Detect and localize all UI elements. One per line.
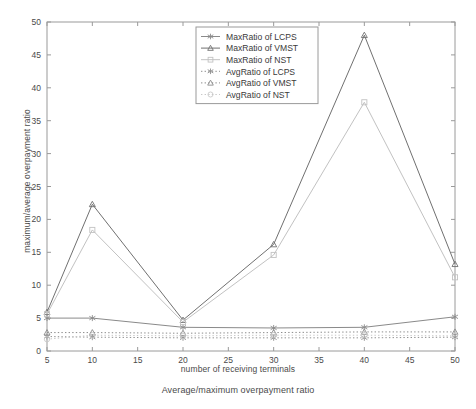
legend-label: AvgRatio of VMST — [226, 78, 297, 88]
legend-label: MaxRatio of VMST — [226, 43, 299, 53]
y-tick-label: 35 — [32, 116, 42, 126]
y-tick-label: 30 — [32, 149, 42, 159]
y-tick-label: 10 — [32, 280, 42, 290]
series-avgratio-of-nst — [44, 333, 457, 342]
y-tick-label: 15 — [32, 247, 42, 257]
chart-legend: MaxRatio of LCPSMaxRatio of VMSTMaxRatio… — [196, 27, 318, 104]
y-tick-label: 0 — [36, 346, 41, 356]
y-tick-label: 20 — [32, 214, 42, 224]
series-avgratio-of-lcps — [44, 334, 458, 341]
series-maxratio-of-nst — [44, 100, 457, 325]
y-axis-label: maximum/average overpayment ratio — [22, 66, 32, 296]
y-tick-label: 25 — [32, 182, 42, 192]
chart-figure: 510152025303540455005101520253035404550 … — [0, 0, 476, 409]
chart-plot-area: 510152025303540455005101520253035404550 … — [0, 0, 476, 409]
series-maxratio-of-lcps — [44, 314, 458, 331]
y-tick-label: 5 — [36, 313, 41, 323]
y-tick-label: 50 — [32, 17, 42, 27]
y-tick-label: 40 — [32, 83, 42, 93]
y-tick-label: 45 — [32, 50, 42, 60]
figure-caption: Average/maximum overpayment ratio — [0, 385, 476, 395]
series-avgratio-of-vmst — [44, 329, 458, 336]
x-axis-label: number of receiving terminals — [0, 364, 476, 374]
legend-label: AvgRatio of LCPS — [226, 67, 295, 77]
legend-label: AvgRatio of NST — [226, 90, 291, 100]
legend-label: MaxRatio of NST — [226, 55, 292, 65]
legend-label: MaxRatio of LCPS — [226, 32, 297, 42]
